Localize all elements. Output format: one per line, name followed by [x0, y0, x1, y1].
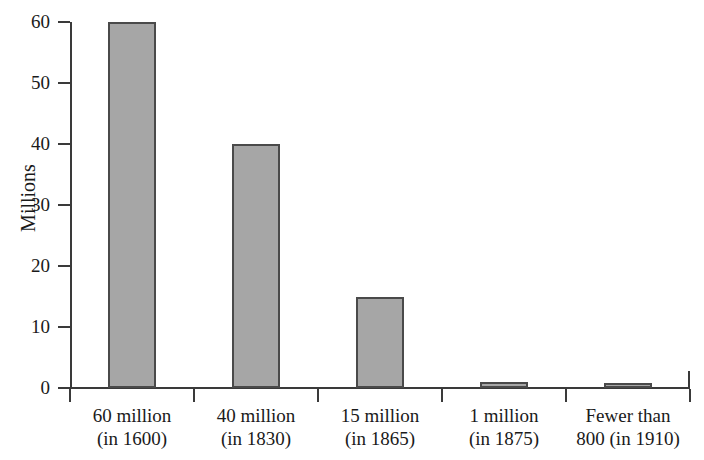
- x-axis-label: Fewer than800 (in 1910): [558, 404, 698, 450]
- x-axis-tick: [69, 389, 71, 402]
- y-axis-line: [70, 22, 72, 389]
- y-axis-tick-label: 0: [4, 378, 50, 397]
- x-axis-label-line2: (in 1875): [434, 427, 574, 450]
- x-axis-label: 60 million(in 1600): [62, 404, 202, 450]
- y-axis-tick-label: 50: [4, 73, 50, 92]
- x-axis-end-cap: [688, 371, 690, 389]
- y-axis-tick-label: 10: [4, 317, 50, 336]
- y-axis-tick-label: 30: [4, 195, 50, 214]
- bar: [356, 297, 404, 389]
- x-axis-label-line1: 60 million: [62, 404, 202, 427]
- y-axis-tick: [58, 82, 70, 84]
- x-axis-label-line1: Fewer than: [558, 404, 698, 427]
- y-axis-tick: [58, 265, 70, 267]
- y-axis-tick: [58, 326, 70, 328]
- bar-chart: Millions 6050403020100 60 million(in 160…: [0, 0, 704, 460]
- x-axis-tick: [565, 389, 567, 402]
- x-axis-label-line2: (in 1600): [62, 427, 202, 450]
- y-axis-tick: [58, 143, 70, 145]
- x-axis-label-line1: 40 million: [186, 404, 326, 427]
- x-axis-tick: [441, 389, 443, 402]
- x-axis-label-line1: 15 million: [310, 404, 450, 427]
- y-axis-tick: [58, 21, 70, 23]
- bar: [108, 22, 156, 388]
- bar: [604, 383, 652, 388]
- x-axis-label-line2: 800 (in 1910): [558, 427, 698, 450]
- x-axis-label: 40 million(in 1830): [186, 404, 326, 450]
- x-axis-label-line1: 1 million: [434, 404, 574, 427]
- y-axis-tick-label: 20: [4, 256, 50, 275]
- x-axis-label: 1 million(in 1875): [434, 404, 574, 450]
- x-axis-label-line2: (in 1830): [186, 427, 326, 450]
- bar: [232, 144, 280, 388]
- x-axis-tick: [317, 389, 319, 402]
- x-axis-tick: [689, 389, 691, 402]
- x-axis-label: 15 million(in 1865): [310, 404, 450, 450]
- y-axis-tick-label: 60: [4, 12, 50, 31]
- x-axis-tick: [193, 389, 195, 402]
- y-axis-tick: [58, 204, 70, 206]
- bar: [480, 382, 528, 388]
- x-axis-label-line2: (in 1865): [310, 427, 450, 450]
- y-axis-tick-label: 40: [4, 134, 50, 153]
